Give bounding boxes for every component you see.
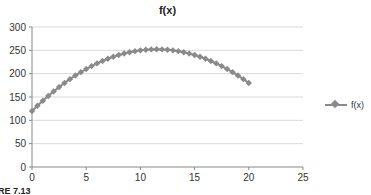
x-tick-labels: 0510152025 [29,172,309,183]
data-point-diamond [105,56,111,62]
data-point-diamond [121,50,127,56]
data-point-diamond [164,47,170,53]
data-series-fx [29,46,252,114]
x-tick-label: 20 [243,172,255,183]
data-point-diamond [94,60,100,66]
y-tick-label: 300 [9,22,26,33]
legend: f(x) [325,100,364,110]
data-point-diamond [197,54,203,60]
y-tick-labels: 050100150200250300 [9,22,26,173]
y-tick-label: 150 [9,92,26,103]
y-tick-label: 250 [9,45,26,56]
data-point-diamond [202,56,208,62]
x-tick-label: 25 [297,172,309,183]
data-point-diamond [186,50,192,56]
legend-diamond-marker-icon [325,104,347,106]
x-tick-label: 5 [83,172,89,183]
plot-area: 050100150200250300 0510152025 [0,0,371,195]
y-tick-label: 0 [20,162,26,173]
data-point-diamond [213,60,219,66]
data-point-diamond [132,48,138,54]
data-point-diamond [159,46,165,52]
data-point-diamond [110,54,116,60]
x-tick-label: 15 [189,172,201,183]
data-point-diamond [143,47,149,53]
y-tick-label: 100 [9,115,26,126]
y-tick-label: 200 [9,68,26,79]
gridlines [32,27,303,144]
data-point-diamond [137,47,143,53]
figure-caption: RE 7.13 [0,186,31,195]
data-point-diamond [148,46,154,52]
data-point-diamond [99,58,105,64]
y-tick-label: 50 [15,138,27,149]
data-point-diamond [208,58,214,64]
data-point-diamond [175,48,181,54]
data-point-diamond [153,46,159,52]
legend-label: f(x) [351,100,364,110]
data-point-diamond [191,52,197,58]
data-point-diamond [116,52,122,58]
data-point-diamond [170,47,176,53]
x-tick-label: 0 [29,172,35,183]
x-tick-label: 10 [135,172,147,183]
